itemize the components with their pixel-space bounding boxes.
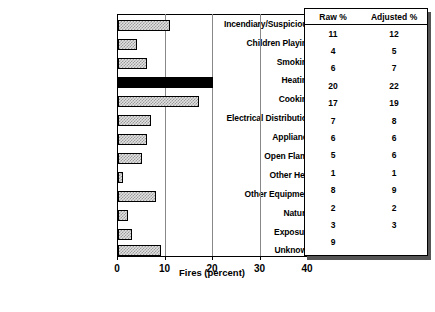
table-row: 33 (305, 216, 427, 233)
xtick-mark-30 (260, 256, 261, 260)
cell-adjusted: 5 (361, 42, 427, 59)
cell-raw: 7 (305, 112, 361, 129)
percent-table: Raw % Adjusted % 1112 45 67 2022 1719 78… (304, 8, 428, 256)
cell-adjusted: 6 (361, 147, 427, 164)
cell-adjusted: 2 (361, 199, 427, 216)
bar-open-flame (118, 153, 142, 164)
cell-adjusted: 8 (361, 112, 427, 129)
cell-raw: 5 (305, 147, 361, 164)
cell-raw: 4 (305, 42, 361, 59)
column-header-raw-percent: Raw % (305, 9, 361, 25)
bar-other-equipment (118, 191, 156, 202)
table-row: 67 (305, 60, 427, 77)
gridline-10 (165, 14, 166, 256)
column-header-adjusted-percent: Adjusted % (361, 9, 427, 25)
table-row: 9 (305, 234, 427, 251)
table-header-row: Raw % Adjusted % (305, 9, 427, 25)
cell-raw: 11 (305, 25, 361, 43)
cell-raw: 6 (305, 60, 361, 77)
bar-unknown (118, 245, 161, 256)
table-row: 1719 (305, 95, 427, 112)
cell-adjusted: 1 (361, 164, 427, 181)
cell-adjusted: 3 (361, 216, 427, 233)
bar-heating (118, 77, 213, 88)
bar-smoking (118, 58, 147, 69)
table-row: 11 (305, 164, 427, 181)
cell-raw: 9 (305, 234, 361, 251)
fire-cause-figure: Incendiary/Suspicious Children Playing S… (0, 0, 435, 312)
cell-raw: 20 (305, 77, 361, 94)
bar-cooking (118, 96, 199, 107)
xtick-mark-0 (117, 256, 118, 260)
gridline-20 (212, 14, 213, 256)
bar-electrical-distribution (118, 115, 151, 126)
table-row: 78 (305, 112, 427, 129)
cell-adjusted: 7 (361, 60, 427, 77)
plot-area: 0 10 20 30 40 (117, 14, 307, 256)
table-row: 89 (305, 182, 427, 199)
bar-chart: Incendiary/Suspicious Children Playing S… (0, 0, 312, 290)
x-axis-title: Fires (percent) (117, 267, 307, 278)
cell-raw: 6 (305, 129, 361, 146)
table-row: 2022 (305, 77, 427, 94)
table-row: 1112 (305, 25, 427, 43)
cell-adjusted: 6 (361, 129, 427, 146)
cell-raw: 3 (305, 216, 361, 233)
bar-other-heat (118, 172, 123, 183)
cell-adjusted: 9 (361, 182, 427, 199)
cell-adjusted: 19 (361, 95, 427, 112)
cell-adjusted: 12 (361, 25, 427, 43)
cell-adjusted: 22 (361, 77, 427, 94)
bar-incendiary-suspicious (118, 20, 170, 31)
table-row: 45 (305, 42, 427, 59)
cell-raw: 8 (305, 182, 361, 199)
xtick-mark-20 (212, 256, 213, 260)
bar-natural (118, 210, 128, 221)
bar-children-playing (118, 39, 137, 50)
bar-appliance (118, 134, 147, 145)
table-row: 66 (305, 129, 427, 146)
bar-exposure (118, 229, 132, 240)
gridline-30 (260, 14, 261, 256)
table-row: 56 (305, 147, 427, 164)
cell-adjusted (361, 234, 427, 251)
cell-raw: 2 (305, 199, 361, 216)
cell-raw: 17 (305, 95, 361, 112)
cell-raw: 1 (305, 164, 361, 181)
table-row: 22 (305, 199, 427, 216)
xtick-mark-10 (165, 256, 166, 260)
